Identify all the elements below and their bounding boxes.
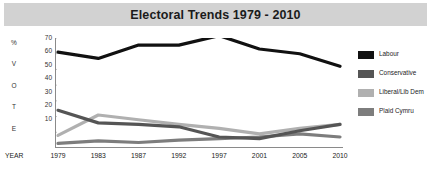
x-axis-tick-label: 2010 (332, 153, 347, 160)
y-axis-caption-letter: E (12, 126, 16, 133)
series-line-plaid-cymru (58, 134, 340, 143)
x-axis-tick-label: 1987 (131, 153, 146, 160)
x-axis-tick-label: 1983 (91, 153, 106, 160)
y-axis-tick-label: 30 (45, 88, 52, 95)
y-axis-caption-letter: O (11, 83, 16, 90)
x-axis-tick-label: 1992 (171, 153, 186, 160)
page-title: Electoral Trends 1979 - 2010 (130, 8, 300, 22)
y-axis-tick-label: 50 (45, 62, 52, 69)
y-axis-caption-letter: V (12, 61, 16, 68)
legend-swatch-icon (358, 51, 374, 59)
series-line-labour (58, 38, 340, 66)
y-axis-caption: %VOTE (6, 40, 22, 132)
legend-item-label: Labour (379, 51, 399, 57)
legend-item[interactable]: Conservative (358, 69, 416, 78)
legend-item[interactable]: Plaid Cymru (358, 107, 414, 116)
line-chart-svg (55, 38, 343, 148)
chart-title-bar: Electoral Trends 1979 - 2010 (4, 3, 427, 26)
y-axis-tick-labels: 70605040302010 (30, 35, 52, 129)
chart-container: %VOTE 70605040302010 YEAR 19791983198719… (0, 26, 345, 176)
y-axis-tick-label: 70 (45, 35, 52, 42)
legend-item-label: Conservative (379, 70, 416, 76)
y-axis-tick-label: 60 (45, 48, 52, 55)
y-axis-tick-label: 20 (45, 102, 52, 109)
chart-screenshot: Electoral Trends 1979 - 2010 %VOTE 70605… (0, 0, 431, 176)
y-axis-tick-label: 10 (45, 115, 52, 122)
legend-swatch-icon (358, 108, 374, 116)
legend-item[interactable]: Labour (358, 50, 399, 59)
chart-legend: LabourConservativeLiberal/Lib DemPlaid C… (358, 50, 431, 122)
legend-item-label: Liberal/Lib Dem (379, 89, 424, 95)
plot-area (55, 38, 343, 148)
x-axis-tick-label: 2001 (252, 153, 267, 160)
y-axis-caption-letter: T (12, 104, 16, 111)
x-axis-tick-label: 1997 (212, 153, 227, 160)
x-axis-tick-labels: 19791983198719921997200120052010 (55, 153, 345, 167)
x-axis-label: YEAR (5, 153, 24, 160)
x-axis-tick-label: 1979 (50, 153, 65, 160)
y-axis-tick-label: 40 (45, 75, 52, 82)
legend-swatch-icon (358, 70, 374, 78)
y-axis-caption-letter: % (11, 40, 17, 47)
x-axis-tick-label: 2005 (292, 153, 307, 160)
legend-swatch-icon (358, 89, 374, 97)
legend-item[interactable]: Liberal/Lib Dem (358, 88, 424, 97)
legend-item-label: Plaid Cymru (379, 108, 414, 114)
